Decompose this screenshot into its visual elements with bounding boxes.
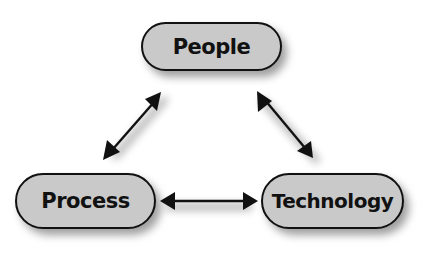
node-process-label: Process: [41, 189, 129, 213]
arrow-people-technology: [257, 91, 313, 158]
diagram-canvas: People Process Technology: [0, 0, 425, 254]
node-technology-label: Technology: [272, 189, 394, 213]
node-process: Process: [15, 173, 156, 229]
arrow-people-process: [103, 92, 161, 160]
node-people: People: [141, 22, 282, 71]
node-people-label: People: [173, 35, 251, 59]
node-technology: Technology: [261, 173, 404, 229]
